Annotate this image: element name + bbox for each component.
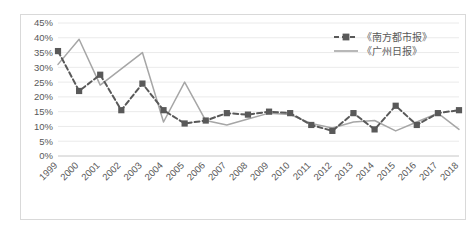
x-tick-label: 2004 (142, 160, 165, 183)
x-tick-label: 2003 (121, 160, 144, 183)
x-tick-label: 2006 (184, 160, 207, 183)
x-tick-label: 2017 (417, 160, 440, 183)
x-tick-label: 1999 (37, 160, 60, 183)
legend-marker-1 (343, 34, 350, 41)
y-tick-label: 10% (34, 121, 54, 132)
data-point-marker (266, 109, 272, 115)
data-point-marker (308, 122, 314, 128)
series-line-1 (58, 51, 459, 131)
x-tick-label: 2009 (248, 160, 271, 183)
x-tick-label: 2012 (311, 160, 334, 183)
data-point-marker (435, 110, 441, 116)
y-tick-label: 5% (39, 136, 53, 147)
x-tick-label: 2014 (353, 160, 376, 183)
data-point-marker (414, 122, 420, 128)
x-axis-tick-labels: 1999200020012002200320042005200620072008… (37, 160, 461, 183)
data-point-marker (350, 110, 356, 116)
chart-plot-frame: 0%5%10%15%20%25%30%35%40%45% 19992000200… (20, 14, 466, 220)
x-tick-label: 2008 (227, 160, 250, 183)
y-tick-label: 20% (34, 91, 54, 102)
data-point-marker (245, 112, 251, 118)
data-point-marker (160, 107, 166, 113)
x-tick-label: 2016 (395, 160, 418, 183)
x-tick-label: 2005 (163, 160, 186, 183)
y-axis-tick-labels: 0%5%10%15%20%25%30%35%40%45% (34, 17, 54, 161)
data-point-marker (371, 126, 377, 132)
y-tick-label: 30% (34, 62, 54, 73)
y-tick-label: 45% (34, 17, 54, 28)
x-tick-label: 2000 (58, 160, 81, 183)
data-point-marker (329, 128, 335, 134)
data-point-marker (76, 88, 82, 94)
x-tick-label: 2013 (332, 160, 355, 183)
x-tick-label: 2015 (374, 160, 397, 183)
line-chart: 0%5%10%15%20%25%30%35%40%45% 19992000200… (21, 15, 465, 219)
x-tick-label: 2007 (206, 160, 229, 183)
data-point-marker (393, 103, 399, 109)
x-tick-label: 2011 (290, 160, 312, 182)
x-tick-label: 2018 (438, 160, 461, 183)
data-point-marker (456, 107, 462, 113)
data-point-marker (139, 80, 145, 86)
y-tick-label: 40% (34, 32, 54, 43)
gridlines-group (58, 23, 459, 156)
data-point-marker (224, 110, 230, 116)
chart-container: 0%5%10%15%20%25%30%35%40%45% 19992000200… (0, 0, 476, 231)
y-tick-label: 15% (34, 106, 54, 117)
data-point-marker (118, 107, 124, 113)
data-point-marker (203, 117, 209, 123)
x-tick-label: 2002 (100, 160, 123, 183)
x-tick-label: 2010 (269, 160, 292, 183)
y-tick-label: 35% (34, 47, 54, 58)
x-tick-label: 2001 (79, 160, 102, 183)
data-point-marker (287, 110, 293, 116)
data-point-marker (182, 120, 188, 126)
data-point-marker (97, 72, 103, 78)
legend-label-2: 《广州日报》 (362, 45, 422, 57)
legend-label-1: 《南方都市报》 (362, 31, 432, 43)
data-point-marker (55, 48, 61, 54)
y-tick-label: 25% (34, 77, 54, 88)
